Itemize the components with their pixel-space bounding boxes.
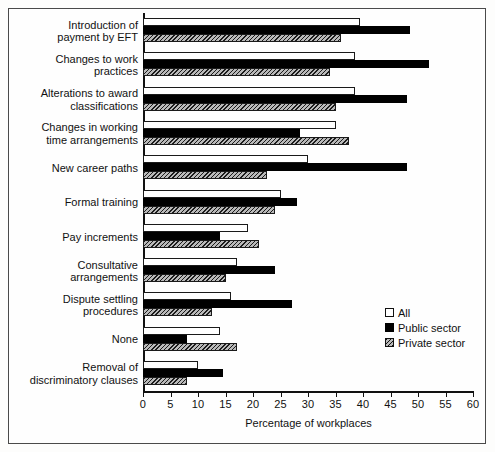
category-label-line: Dispute settling [8, 293, 138, 306]
x-axis-tick [336, 392, 337, 397]
x-axis-tick-label: 20 [238, 398, 268, 410]
legend-item-label: Private sector [398, 337, 465, 349]
category-label: Introduction ofpayment by EFT [8, 19, 143, 44]
legend-item: All [385, 305, 465, 320]
x-axis-tick-label: 15 [211, 398, 241, 410]
x-axis-tick-label: 0 [128, 398, 158, 410]
category-label-line: procedures [8, 305, 138, 318]
bar-all [143, 121, 336, 129]
category-label: Changes in workingtime arrangements [8, 121, 143, 146]
category-label: Formal training [8, 196, 143, 209]
x-axis-tick [171, 392, 172, 397]
category-label: None [8, 333, 143, 346]
bar-private-sector [143, 240, 259, 248]
bar-private-sector [143, 34, 341, 42]
category-label: Pay increments [8, 231, 143, 244]
bar-public-sector [143, 335, 187, 343]
legend-item-label: All [398, 307, 410, 319]
category-axis-labels: Introduction ofpayment by EFTChanges to … [0, 0, 143, 452]
legend-item: Private sector [385, 335, 465, 350]
bar-all [143, 18, 360, 26]
bar-public-sector [143, 95, 407, 103]
bar-public-sector [143, 232, 220, 240]
x-axis-tick [446, 392, 447, 397]
legend-item: Public sector [385, 320, 465, 335]
x-axis-tick [391, 392, 392, 397]
bar-all [143, 224, 248, 232]
bar-public-sector [143, 163, 407, 171]
bar-private-sector [143, 171, 267, 179]
category-label-line: Changes in working [8, 121, 138, 134]
x-axis-tick-label: 25 [266, 398, 296, 410]
x-axis-title: Percentage of workplaces [143, 417, 474, 429]
bar-all [143, 292, 231, 300]
bar-all [143, 258, 237, 266]
x-axis-tick [363, 392, 364, 397]
category-label-line: practices [8, 65, 138, 78]
bar-public-sector [143, 266, 275, 274]
category-label: Removal ofdiscriminatory clauses [8, 361, 143, 386]
x-axis-tick-label: 55 [431, 398, 461, 410]
bar-public-sector [143, 60, 429, 68]
x-axis-tick-label: 40 [348, 398, 378, 410]
bar-private-sector [143, 377, 187, 385]
x-axis-tick [226, 392, 227, 397]
x-axis-tick [281, 392, 282, 397]
bar-public-sector [143, 300, 292, 308]
bar-private-sector [143, 274, 226, 282]
x-axis-tick [308, 392, 309, 397]
category-label: Dispute settlingprocedures [8, 293, 143, 318]
x-axis-tick-label: 5 [156, 398, 186, 410]
bar-private-sector [143, 343, 237, 351]
x-axis-tick-label: 10 [183, 398, 213, 410]
category-label: Changes to workpractices [8, 53, 143, 78]
category-label: Consultativearrangements [8, 259, 143, 284]
category-label-line: discriminatory clauses [8, 374, 138, 387]
hatched-square-icon [385, 338, 394, 347]
bar-all [143, 87, 355, 95]
bar-all [143, 155, 308, 163]
bar-public-sector [143, 26, 410, 34]
bar-all [143, 52, 355, 60]
category-label: New career paths [8, 162, 143, 175]
category-label-line: Consultative [8, 259, 138, 272]
category-label-line: Pay increments [8, 231, 138, 244]
bar-public-sector [143, 369, 223, 377]
x-axis-tick-label: 35 [321, 398, 351, 410]
x-axis-tick-label: 30 [293, 398, 323, 410]
bar-private-sector [143, 206, 275, 214]
category-label-line: Formal training [8, 196, 138, 209]
category-label-line: Alterations to award [8, 87, 138, 100]
black-square-icon [385, 323, 394, 332]
x-axis-tick [473, 392, 474, 397]
category-label-line: None [8, 333, 138, 346]
category-label-line: Removal of [8, 361, 138, 374]
category-label-line: payment by EFT [8, 31, 138, 44]
category-label: Alterations to awardclassifications [8, 87, 143, 112]
x-axis-tick [143, 392, 144, 397]
bar-all [143, 190, 281, 198]
bar-private-sector [143, 68, 330, 76]
bar-public-sector [143, 198, 297, 206]
bar-private-sector [143, 103, 336, 111]
x-axis-tick [418, 392, 419, 397]
x-axis-tick [253, 392, 254, 397]
chart-figure: Introduction ofpayment by EFTChanges to … [0, 0, 495, 452]
bar-private-sector [143, 137, 349, 145]
category-label-line: Changes to work [8, 53, 138, 66]
x-axis-tick-label: 60 [458, 398, 488, 410]
category-label-line: classifications [8, 100, 138, 113]
x-axis-tick [198, 392, 199, 397]
category-label-line: Introduction of [8, 19, 138, 32]
bar-all [143, 327, 220, 335]
bar-all [143, 361, 198, 369]
bar-public-sector [143, 129, 300, 137]
x-axis-tick-label: 45 [376, 398, 406, 410]
chart-legend: AllPublic sectorPrivate sector [385, 305, 465, 350]
category-label-line: New career paths [8, 162, 138, 175]
x-axis-tick-label: 50 [403, 398, 433, 410]
legend-item-label: Public sector [398, 322, 461, 334]
category-label-line: arrangements [8, 271, 138, 284]
white-square-icon [385, 308, 394, 317]
bar-private-sector [143, 308, 212, 316]
